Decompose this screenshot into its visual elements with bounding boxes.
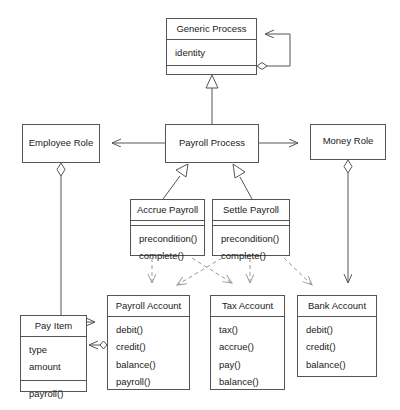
class-name-pay-item: Pay Item [21, 316, 86, 337]
class-name-employee-role: Employee Role [23, 125, 99, 153]
operation-item: balance() [108, 356, 189, 374]
class-name-generic-process: Generic Process [167, 19, 256, 40]
attribute-item: type [21, 341, 86, 359]
operation-item: balance() [211, 373, 284, 391]
class-box-generic-process[interactable]: Generic Process identity [166, 18, 257, 75]
operation-item: complete() [213, 247, 289, 265]
edge-accrue-payroll-to-payroll-process [163, 164, 188, 199]
class-box-accrue-payroll[interactable]: Accrue Payroll precondition() complete() [130, 199, 205, 256]
operation-item: accrue() [211, 338, 284, 356]
class-operations-generic-process [167, 66, 256, 71]
class-name-money-role: Money Role [311, 125, 385, 151]
class-attributes-pay-item: type amount [21, 337, 86, 381]
edge-employee-role-to-payroll-account [57, 163, 95, 322]
operation-item: debit() [108, 321, 189, 339]
operation-item: payroll() [21, 385, 86, 403]
class-operations-accrue-payroll: precondition() complete() [131, 226, 204, 269]
class-box-payroll-account[interactable]: Payroll Account debit() credit() balance… [107, 295, 190, 390]
edge-generic-process-self-aggregation [257, 34, 290, 70]
operation-item: tax() [211, 321, 284, 339]
class-box-settle-payroll[interactable]: Settle Payroll precondition() complete() [212, 199, 290, 256]
operation-item: debit() [298, 321, 376, 339]
class-operations-settle-payroll: precondition() complete() [213, 226, 289, 269]
class-box-pay-item[interactable]: Pay Item type amount payroll() [20, 315, 87, 392]
class-operations-tax-account: tax() accrue() pay() balance() [211, 317, 284, 395]
operation-item: pay() [211, 356, 284, 374]
class-box-payroll-process[interactable]: Payroll Process [165, 124, 259, 163]
class-name-settle-payroll: Settle Payroll [213, 200, 289, 221]
operation-item: payroll() [108, 373, 189, 391]
class-name-payroll-process: Payroll Process [166, 125, 258, 153]
class-box-employee-role[interactable]: Employee Role [22, 124, 100, 163]
uml-class-diagram: Generic Process identity Employee Role P… [0, 0, 400, 410]
operation-item: precondition() [131, 230, 204, 248]
edge-payroll-account-to-pay-item [89, 341, 107, 349]
class-name-accrue-payroll: Accrue Payroll [131, 200, 204, 221]
edge-money-role-to-bank-account [344, 160, 352, 283]
operation-item: precondition() [213, 230, 289, 248]
class-name-tax-account: Tax Account [211, 296, 284, 317]
class-box-bank-account[interactable]: Bank Account debit() credit() balance() [297, 295, 377, 377]
attribute-item: amount [21, 358, 86, 376]
class-box-tax-account[interactable]: Tax Account tax() accrue() pay() balance… [210, 295, 285, 390]
class-name-bank-account: Bank Account [298, 296, 376, 317]
class-operations-payroll-account: debit() credit() balance() payroll() [108, 317, 189, 395]
operation-item: complete() [131, 247, 204, 265]
operation-item: balance() [298, 356, 376, 374]
operation-item: credit() [108, 338, 189, 356]
edge-settle-payroll-to-payroll-process [233, 164, 252, 199]
class-operations-bank-account: debit() credit() balance() [298, 317, 376, 378]
attribute-item: identity [167, 44, 256, 62]
class-attributes-generic-process: identity [167, 40, 256, 67]
class-box-money-role[interactable]: Money Role [310, 124, 386, 160]
operation-item: credit() [298, 338, 376, 356]
class-name-payroll-account: Payroll Account [108, 296, 189, 317]
class-operations-pay-item: payroll() [21, 381, 86, 407]
edge-payroll-process-to-generic-process [206, 75, 218, 124]
